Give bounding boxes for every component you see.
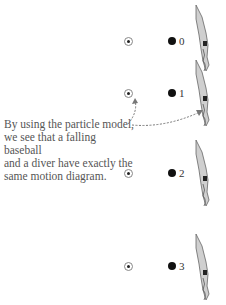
caption-line: we see that a falling baseball [4, 131, 134, 157]
arrowhead-icon [132, 98, 138, 104]
caption-text: By using the particle model, we see that… [4, 118, 134, 183]
diver-figure-icon [196, 5, 209, 71]
diver-figure-icon [196, 60, 209, 126]
caption-line: same motion diagram. [4, 170, 134, 183]
pointer-arrows [128, 100, 200, 125]
diver-figure-icon [196, 140, 209, 206]
arrowheads [132, 98, 203, 116]
caption-line: and a diver have exactly the [4, 157, 134, 170]
diver-figure-icon [196, 234, 209, 300]
caption-line: By using the particle model, [4, 118, 134, 131]
